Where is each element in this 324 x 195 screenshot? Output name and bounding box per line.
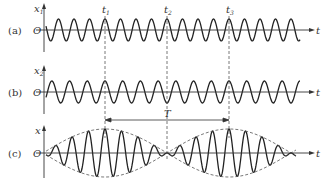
panel-c-label: (c) — [8, 148, 22, 159]
arrowheads — [42, 3, 315, 155]
origin-c: O — [33, 148, 41, 159]
arrow-right-icon — [223, 118, 229, 122]
origin-b: O — [33, 87, 41, 98]
y-label-b: x2 — [34, 65, 44, 77]
y-label-a: x1 — [34, 3, 43, 15]
x-arrow-c-icon — [309, 151, 315, 155]
arrow-left-icon — [105, 118, 111, 122]
t3-label: t3 — [226, 4, 234, 16]
t2-label: t2 — [164, 4, 172, 16]
y-label-c: x — [35, 125, 41, 136]
origin-a: O — [33, 25, 41, 36]
panel-a-label: (a) — [8, 25, 22, 36]
beats-diagram: T t1 t2 t3 (a) (b) (c) O O O x1 x2 x t t… — [0, 0, 324, 195]
x-arrow-a-icon — [309, 28, 315, 32]
y-arrow-c-icon — [42, 125, 46, 131]
t1-label: t1 — [102, 4, 110, 16]
x-label-b: t — [316, 87, 321, 98]
period-label: T — [164, 108, 172, 119]
panel-b-label: (b) — [8, 87, 22, 98]
x-arrow-b-icon — [309, 90, 315, 94]
x-label-c: t — [316, 148, 321, 159]
x-label-a: t — [316, 25, 321, 36]
